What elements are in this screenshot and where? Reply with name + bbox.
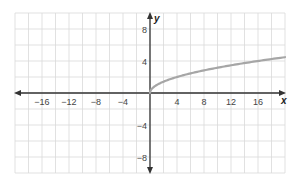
x-tick-label: 12 bbox=[226, 97, 236, 107]
x-tick-label: −4 bbox=[118, 97, 128, 107]
y-axis-label: y bbox=[153, 13, 160, 24]
y-tick-label: 8 bbox=[142, 25, 147, 35]
graph: −16−12−8−4481216 84−4−8 x y bbox=[0, 0, 299, 186]
y-tick-label: −8 bbox=[137, 153, 147, 163]
y-tick-label: −4 bbox=[137, 121, 147, 131]
x-tick-label: −12 bbox=[61, 97, 76, 107]
y-tick-label: 4 bbox=[142, 57, 147, 67]
x-axis-label: x bbox=[280, 95, 287, 106]
x-tick-label: −8 bbox=[91, 97, 101, 107]
x-tick-label: −16 bbox=[34, 97, 49, 107]
x-tick-label: 8 bbox=[201, 97, 206, 107]
x-tick-label: 16 bbox=[253, 97, 263, 107]
x-tick-label: 4 bbox=[174, 97, 179, 107]
x-tick-labels: −16−12−8−4481216 bbox=[34, 97, 263, 107]
